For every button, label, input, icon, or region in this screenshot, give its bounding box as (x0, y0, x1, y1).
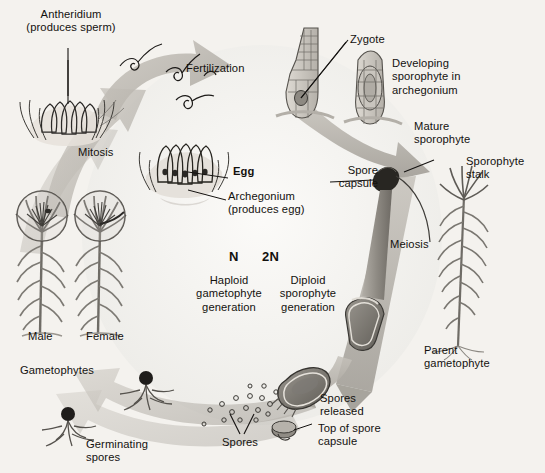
label-diploid-generation: Diploid sporophyte generation (268, 274, 348, 314)
label-antheridium: Antheridium (produces sperm) (8, 8, 134, 35)
label-germinating-spores: Germinating spores (86, 438, 148, 465)
label-zygote: Zygote (350, 33, 385, 46)
label-mitosis: Mitosis (78, 146, 114, 159)
label-2n: 2N (262, 249, 279, 264)
label-fertilization: Fertilization (186, 62, 245, 75)
diagram-artwork (0, 0, 545, 473)
label-developing-sporophyte: Developing sporophyte in archegonium (392, 57, 460, 97)
label-mature-sporophyte: Mature sporophyte (414, 120, 470, 147)
label-parent-gametophyte: Parent gametophyte (424, 344, 490, 371)
label-spores: Spores (222, 436, 258, 449)
label-top-of-spore-capsule: Top of spore capsule (318, 422, 381, 449)
label-spores-released: Spores released (320, 392, 364, 419)
label-archegonium: Archegonium (produces egg) (228, 190, 305, 217)
label-meiosis: Meiosis (390, 238, 429, 251)
label-spore-capsule: Spore capsule (330, 164, 378, 191)
label-sporophyte-stalk: Sporophyte stalk (466, 155, 524, 182)
label-gametophytes: Gametophytes (20, 364, 94, 377)
label-haploid-generation: Haploid gametophyte generation (189, 274, 269, 314)
label-male: Male (28, 330, 53, 343)
label-n: N (229, 249, 239, 264)
label-egg: Egg (233, 165, 254, 178)
moss-life-cycle-diagram: Antheridium (produces sperm) Fertilizati… (0, 0, 545, 473)
label-female: Female (86, 330, 124, 343)
